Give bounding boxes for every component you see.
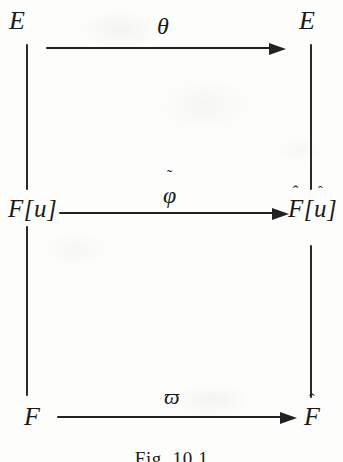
tilde-icon: ˜ [167,168,172,184]
arrow-label-varpi: ϖ [164,386,180,408]
tilde-accent-group-phi: ˜ φ [163,183,176,207]
node-bottom-left: F [24,404,40,430]
arrow-top-head [269,43,286,55]
node-top-left: E [9,8,25,34]
node-bottom-right: ˆ F [304,404,320,430]
hat-icon: ˆ [304,0,310,12]
arrow-middle-shaft [59,212,273,214]
node-mid-right-close: ] [327,195,337,222]
arrow-label-phi-base: φ [163,182,176,208]
arrow-bottom-shaft [57,416,281,418]
connector-right-lower [310,245,312,398]
arrow-bottom-head [280,412,297,424]
node-mid-left: F[u] [8,196,57,221]
connector-left-lower [26,226,28,396]
arrow-label-phi-tilde: ˜ φ [163,183,176,207]
figure-caption: Fig. 10.1 [0,448,343,462]
figure-canvas: E ˆ E θ F[u] ˆ F [ ˆ u ] ˜ φ [0,0,343,462]
arrow-bottom [57,416,297,419]
node-top-right: ˆ E [299,8,315,34]
hat-accent-group-u: ˆ u [314,196,327,221]
hat-accent-group-e: ˆ E [299,8,315,34]
hat-icon: ˆ [293,183,299,200]
hat-accent-group-f-mid: ˆ F [288,196,304,221]
arrow-top [46,47,286,50]
hat-icon: ˆ [309,391,315,408]
connector-left-upper [26,44,28,190]
node-mid-right-open: [ [304,195,314,222]
arrow-label-theta: θ [157,14,169,38]
node-mid-right: ˆ F [ ˆ u ] [288,196,337,221]
hat-accent-group-f-bottom: ˆ F [304,404,320,430]
arrow-top-shaft [46,47,270,49]
arrow-middle-head [272,208,289,220]
node-mid-right-u: u [314,195,327,222]
hat-icon: ˆ [318,185,323,199]
connector-right-upper [310,44,312,190]
arrow-middle [59,212,289,215]
